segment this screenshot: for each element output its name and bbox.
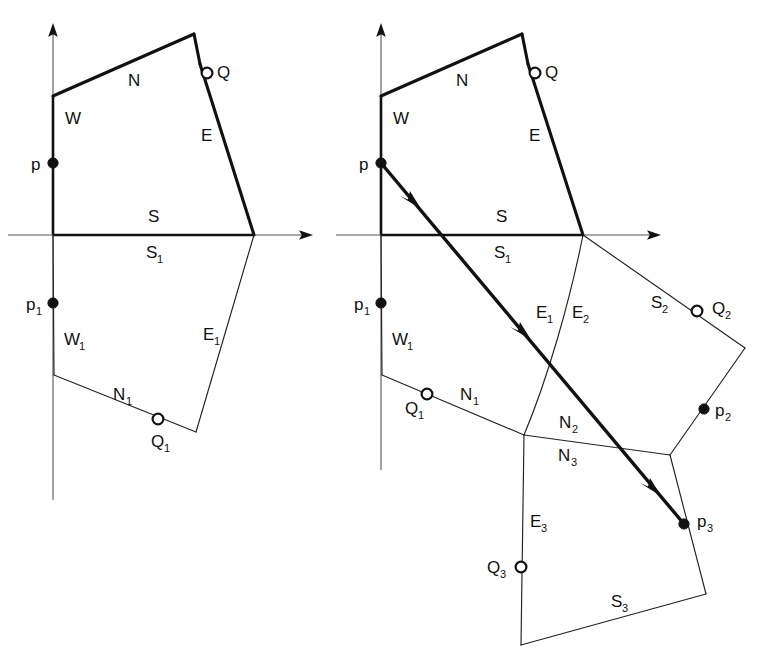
right-label-E3: E bbox=[530, 512, 541, 531]
right-label-N: N bbox=[456, 71, 468, 90]
left-panel: N W E Q S S 1 p p 1 W 1 N 1 E 1 Q 1 bbox=[8, 23, 313, 500]
left-label-N1: N bbox=[113, 385, 125, 404]
left-label-Q1: Q bbox=[151, 432, 164, 451]
right-label-E2-subscript: 2 bbox=[583, 313, 589, 325]
right-point-p3 bbox=[679, 519, 689, 529]
ray-arrowhead-3-icon bbox=[640, 478, 661, 496]
right-point-p bbox=[376, 158, 386, 168]
left-edge-top-right bbox=[194, 34, 200, 64]
right-label-p1-group: p 1 bbox=[354, 295, 370, 317]
right-label-p1: p bbox=[354, 295, 363, 314]
left-label-W: W bbox=[65, 109, 81, 128]
right-label-Q3-group: Q 3 bbox=[487, 558, 506, 580]
right-label-S1-group: S 1 bbox=[494, 243, 511, 265]
left-label-p1: p bbox=[26, 295, 35, 314]
right-label-Q3-subscript: 3 bbox=[500, 568, 506, 580]
right-label-E1: E bbox=[536, 303, 547, 322]
right-label-p: p bbox=[359, 155, 368, 174]
right-edge-S2-lower bbox=[670, 348, 745, 455]
right-label-E1-subscript: 1 bbox=[547, 313, 553, 325]
right-edge-top-right bbox=[522, 34, 528, 64]
left-label-E1-subscript: 1 bbox=[214, 335, 220, 347]
left-label-W1-subscript: 1 bbox=[79, 340, 85, 352]
right-label-Q3: Q bbox=[487, 558, 500, 577]
right-label-N1-group: N 1 bbox=[460, 385, 479, 407]
right-label-p2-group: p 2 bbox=[715, 401, 731, 423]
traversal-ray-group bbox=[381, 163, 684, 524]
right-label-Q1-subscript: 1 bbox=[418, 409, 424, 421]
right-label-Q2-subscript: 2 bbox=[725, 309, 731, 321]
right-label-S2-group: S 2 bbox=[651, 293, 668, 315]
traversal-ray bbox=[381, 163, 684, 524]
left-label-p: p bbox=[31, 155, 40, 174]
right-label-Q2-group: Q 2 bbox=[712, 299, 731, 321]
right-label-S2-subscript: 2 bbox=[662, 303, 668, 315]
right-label-W: W bbox=[393, 109, 409, 128]
left-label-E1-group: E 1 bbox=[203, 325, 220, 347]
left-label-W1-group: W 1 bbox=[64, 330, 85, 352]
left-point-Q bbox=[202, 68, 213, 79]
right-label-Q2: Q bbox=[712, 299, 725, 318]
right-point-p1 bbox=[376, 298, 386, 308]
right-label-p2: p bbox=[715, 401, 724, 420]
right-label-N3-group: N 3 bbox=[558, 446, 577, 468]
right-edge-E bbox=[528, 64, 583, 235]
right-label-N2-group: N 2 bbox=[559, 413, 578, 435]
right-label-E1-group: E 1 bbox=[536, 303, 553, 325]
left-edge-N bbox=[53, 34, 194, 96]
right-panel: N W E Q S S 1 p p 1 W 1 N 1 Q 1 E 1 E bbox=[336, 23, 745, 645]
right-point-Q2 bbox=[692, 306, 703, 317]
right-label-W1-subscript: 1 bbox=[407, 340, 413, 352]
left-label-N1-subscript: 1 bbox=[126, 395, 132, 407]
right-label-N2: N bbox=[559, 413, 571, 432]
right-label-S3-subscript: 3 bbox=[622, 602, 628, 614]
right-label-Q: Q bbox=[545, 63, 558, 82]
left-edge-E bbox=[200, 64, 254, 235]
right-region-3-polygon bbox=[521, 435, 706, 645]
right-label-E2-group: E 2 bbox=[572, 303, 589, 325]
right-label-p3-subscript: 3 bbox=[707, 522, 713, 534]
right-label-E: E bbox=[529, 126, 540, 145]
left-label-Q1-subscript: 1 bbox=[164, 442, 170, 454]
right-label-Q1-group: Q 1 bbox=[405, 399, 424, 421]
right-label-S2: S bbox=[651, 293, 662, 312]
right-label-S1-subscript: 1 bbox=[505, 253, 511, 265]
left-label-p1-subscript: 1 bbox=[36, 305, 42, 317]
right-label-p3: p bbox=[697, 512, 706, 531]
right-label-E3-group: E 3 bbox=[530, 512, 547, 534]
right-label-S3-group: S 3 bbox=[611, 592, 628, 614]
right-label-W1: W bbox=[392, 330, 408, 349]
right-label-N3-subscript: 3 bbox=[571, 456, 577, 468]
left-point-p bbox=[48, 158, 58, 168]
right-region-2-polygon bbox=[524, 235, 745, 455]
right-edge-E3 bbox=[521, 435, 524, 645]
ray-arrowhead-1-icon bbox=[400, 191, 421, 209]
left-lower-polygon bbox=[53, 235, 254, 432]
left-label-S1-group: S 1 bbox=[146, 243, 163, 265]
right-label-N1-subscript: 1 bbox=[473, 395, 479, 407]
right-label-p3-group: p 3 bbox=[697, 512, 713, 534]
right-label-p2-subscript: 2 bbox=[725, 411, 731, 423]
left-label-S: S bbox=[148, 207, 159, 226]
right-edge-N bbox=[381, 34, 522, 96]
right-label-E2: E bbox=[572, 303, 583, 322]
right-label-S: S bbox=[496, 207, 507, 226]
right-point-p2 bbox=[699, 404, 709, 414]
right-label-Q1: Q bbox=[405, 399, 418, 418]
right-point-Q bbox=[530, 68, 541, 79]
right-label-S1: S bbox=[494, 243, 505, 262]
left-label-E1: E bbox=[203, 325, 214, 344]
left-label-W1: W bbox=[64, 330, 80, 349]
right-edge-E1 bbox=[524, 235, 583, 435]
left-label-N1-group: N 1 bbox=[113, 385, 132, 407]
right-edge-N1 bbox=[382, 375, 524, 435]
right-edge-S2 bbox=[583, 235, 745, 348]
right-label-N3: N bbox=[558, 446, 570, 465]
left-label-S1-subscript: 1 bbox=[157, 253, 163, 265]
left-label-Q1-group: Q 1 bbox=[151, 432, 170, 454]
right-point-Q3 bbox=[516, 562, 527, 573]
right-label-W1-group: W 1 bbox=[392, 330, 413, 352]
left-label-p1-group: p 1 bbox=[26, 295, 42, 317]
ray-arrowhead-2-icon bbox=[510, 322, 531, 340]
left-label-N: N bbox=[128, 71, 140, 90]
